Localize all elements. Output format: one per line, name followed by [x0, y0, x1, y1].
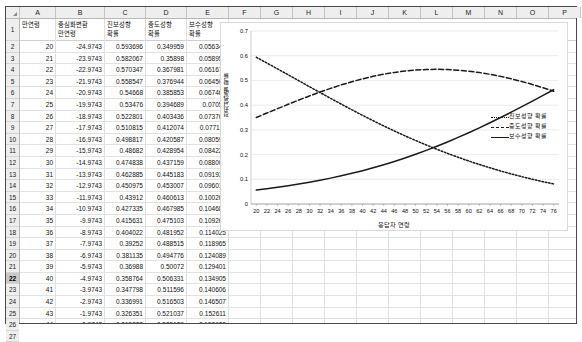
- table-cell-empty[interactable]: [325, 284, 357, 295]
- table-cell[interactable]: 0.385853: [146, 87, 187, 98]
- table-cell[interactable]: -7.9743: [56, 238, 105, 249]
- table-cell-empty[interactable]: [293, 296, 325, 307]
- table-cell-empty[interactable]: [421, 250, 453, 261]
- table-row[interactable]: 44-0.97430.3158880.5251890.158923: [20, 319, 576, 323]
- table-cell-empty[interactable]: [389, 238, 421, 249]
- table-cell-empty[interactable]: [357, 308, 389, 319]
- table-cell[interactable]: -16.9743: [56, 134, 105, 145]
- table-cell[interactable]: 29: [20, 145, 56, 156]
- table-cell[interactable]: -23.9743: [56, 53, 105, 64]
- table-cell-empty[interactable]: [421, 296, 453, 307]
- table-cell-empty[interactable]: [261, 296, 293, 307]
- table-cell[interactable]: 22: [20, 64, 56, 75]
- table-cell-empty[interactable]: [517, 308, 549, 319]
- table-cell-empty[interactable]: [421, 273, 453, 284]
- table-cell[interactable]: 0.403436: [146, 111, 187, 122]
- table-cell-empty[interactable]: [229, 319, 261, 323]
- table-cell[interactable]: 0.475103: [146, 215, 187, 226]
- row-header-12[interactable]: 12: [6, 157, 19, 169]
- table-cell-empty[interactable]: [325, 308, 357, 319]
- table-cell-empty[interactable]: [325, 250, 357, 261]
- table-cell[interactable]: 0.593696: [105, 41, 146, 52]
- table-cell[interactable]: 39: [20, 261, 56, 272]
- table-cell[interactable]: -0.9743: [56, 319, 105, 323]
- table-cell[interactable]: 0.412074: [146, 122, 187, 133]
- row-header-25[interactable]: 25: [6, 308, 19, 320]
- table-cell-empty[interactable]: [325, 273, 357, 284]
- table-cell[interactable]: 0.506331: [146, 273, 187, 284]
- table-cell[interactable]: 0.394689: [146, 99, 187, 110]
- table-cell[interactable]: -3.9743: [56, 284, 105, 295]
- table-cell-empty[interactable]: [261, 273, 293, 284]
- table-cell[interactable]: 0.450975: [105, 180, 146, 191]
- table-cell[interactable]: 27: [20, 122, 56, 133]
- table-cell[interactable]: 20: [20, 41, 56, 52]
- table-cell[interactable]: -20.9743: [56, 87, 105, 98]
- table-cell-empty[interactable]: [357, 250, 389, 261]
- table-cell[interactable]: 0.427335: [105, 203, 146, 214]
- table-cell[interactable]: 0.404022: [105, 227, 146, 238]
- row-header-10[interactable]: 10: [6, 134, 19, 146]
- table-cell-empty[interactable]: [325, 296, 357, 307]
- table-cell-empty[interactable]: [485, 261, 517, 272]
- table-cell[interactable]: 0.453007: [146, 180, 187, 191]
- table-cell[interactable]: 0.516503: [146, 296, 187, 307]
- table-cell-empty[interactable]: [229, 250, 261, 261]
- row-header-8[interactable]: 8: [6, 111, 19, 123]
- table-cell-empty[interactable]: [517, 319, 549, 323]
- column-header-j[interactable]: J: [357, 7, 389, 18]
- table-cell[interactable]: -1.9743: [56, 308, 105, 319]
- table-cell[interactable]: 0.462885: [105, 169, 146, 180]
- table-cell-empty[interactable]: [389, 261, 421, 272]
- table-cell-empty[interactable]: [485, 296, 517, 307]
- table-cell-empty[interactable]: [357, 319, 389, 323]
- table-cell[interactable]: -14.9743: [56, 157, 105, 168]
- table-cell[interactable]: 0.525189: [146, 319, 187, 323]
- table-cell[interactable]: 35: [20, 215, 56, 226]
- table-cell[interactable]: 0.315888: [105, 319, 146, 323]
- table-cell[interactable]: -19.9743: [56, 99, 105, 110]
- table-cell-empty[interactable]: [229, 273, 261, 284]
- row-header-13[interactable]: 13: [6, 169, 19, 181]
- table-cell-empty[interactable]: [517, 284, 549, 295]
- table-cell[interactable]: -13.9743: [56, 169, 105, 180]
- table-cell-empty[interactable]: [485, 250, 517, 261]
- table-cell[interactable]: 38: [20, 250, 56, 261]
- table-cell-empty[interactable]: [421, 238, 453, 249]
- row-header-22[interactable]: 22: [6, 273, 19, 285]
- table-cell[interactable]: 26: [20, 111, 56, 122]
- table-cell[interactable]: 0.428954: [146, 145, 187, 156]
- table-cell[interactable]: 0.358764: [105, 273, 146, 284]
- table-cell-empty[interactable]: [549, 261, 576, 272]
- column-header-o[interactable]: O: [517, 7, 549, 18]
- table-cell-empty[interactable]: [485, 238, 517, 249]
- table-cell[interactable]: 30: [20, 157, 56, 168]
- table-cell-empty[interactable]: [421, 308, 453, 319]
- row-header-4[interactable]: 4: [6, 64, 19, 76]
- legend-item-conservative[interactable]: 보수성향 확률: [491, 133, 565, 142]
- table-cell-empty[interactable]: [453, 250, 485, 261]
- row-header-3[interactable]: 3: [6, 53, 19, 65]
- row-header-21[interactable]: 21: [6, 261, 19, 273]
- table-cell-empty[interactable]: [517, 296, 549, 307]
- table-cell-empty[interactable]: [229, 238, 261, 249]
- row-header-16[interactable]: 16: [6, 203, 19, 215]
- table-cell[interactable]: 41: [20, 284, 56, 295]
- table-cell-empty[interactable]: [229, 296, 261, 307]
- table-cell-empty[interactable]: [357, 261, 389, 272]
- table-cell-empty[interactable]: [517, 261, 549, 272]
- row-header-9[interactable]: 9: [6, 122, 19, 134]
- table-cell[interactable]: 0.437159: [146, 157, 187, 168]
- table-cell-empty[interactable]: [517, 273, 549, 284]
- column-header-l[interactable]: L: [421, 7, 453, 18]
- table-cell[interactable]: 0.336991: [105, 296, 146, 307]
- row-header-23[interactable]: 23: [6, 284, 19, 296]
- table-cell[interactable]: 0.582067: [105, 53, 146, 64]
- table-cell[interactable]: 31: [20, 169, 56, 180]
- table-cell[interactable]: 0.481952: [146, 227, 187, 238]
- table-row[interactable]: 39-5.97430.369880.500720.129401: [20, 261, 576, 273]
- column-header-b[interactable]: B: [56, 7, 105, 18]
- table-cell[interactable]: 42: [20, 296, 56, 307]
- table-cell[interactable]: 0.326351: [105, 308, 146, 319]
- table-cell-empty[interactable]: [485, 308, 517, 319]
